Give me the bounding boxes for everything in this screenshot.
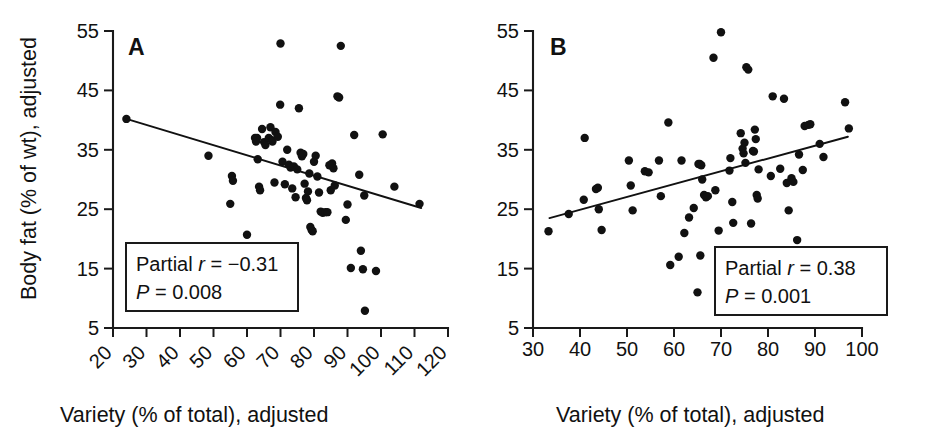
panel-b-x-ticklabels: 30405060708090100	[522, 338, 879, 360]
data-point	[655, 156, 663, 164]
data-point	[226, 200, 234, 208]
data-point	[776, 165, 784, 173]
panel-b-scatter-chart: Variety (% of total), adjusted B 5152535…	[462, 0, 925, 436]
data-point	[335, 93, 343, 101]
data-point	[295, 104, 303, 112]
data-point	[357, 247, 365, 255]
data-point	[342, 216, 350, 224]
data-point	[283, 146, 291, 154]
data-point	[270, 178, 278, 186]
data-point	[784, 206, 792, 214]
data-point	[343, 200, 351, 208]
panel-b-x-tick-label: 40	[569, 338, 591, 360]
data-point	[256, 186, 264, 194]
data-point	[752, 135, 760, 143]
data-point	[355, 171, 363, 179]
panel-a-stat-line-2: P = 0.008	[136, 281, 222, 303]
panel-a-y-tick-label: 5	[88, 317, 99, 339]
data-point	[347, 264, 355, 272]
panel-a-x-tick-label: 110	[379, 341, 417, 379]
data-point	[580, 196, 588, 204]
panel-b-x-tick-label: 30	[522, 338, 544, 360]
data-point	[754, 165, 762, 173]
panel-b-letter: B	[550, 34, 567, 60]
data-point	[747, 219, 755, 227]
data-point	[697, 161, 705, 169]
data-point	[372, 267, 380, 275]
panel-a-y-tick-label: 15	[77, 258, 99, 280]
panel-a-x-tick-label: 60	[219, 341, 250, 372]
panel-a-x-tick-label: 100	[345, 341, 384, 380]
panel-a-stat-line-1: Partial r = −0.31	[136, 253, 278, 275]
panel-b-x-tick-label: 100	[845, 338, 878, 360]
panel-a-x-tick-label: 70	[252, 341, 283, 372]
panel-b-x-tick-label: 90	[804, 338, 826, 360]
data-point	[243, 231, 251, 239]
panel-b-x-axis-title: Variety (% of total), adjusted	[556, 403, 824, 427]
panel-a-x-tick-label: 40	[152, 341, 183, 372]
data-point	[685, 213, 693, 221]
data-point	[625, 156, 633, 164]
data-point	[728, 198, 736, 206]
panel-b-stat-annotation: Partial r = 0.38 P = 0.001	[715, 247, 887, 315]
data-point	[789, 178, 797, 186]
data-point	[276, 39, 284, 47]
panel-b-y-axis: 51525354555	[497, 20, 533, 339]
panel-b-y-tick-label: 35	[497, 139, 519, 161]
data-point	[714, 226, 722, 234]
panel-a-x-tick-label: 90	[319, 341, 350, 372]
data-point	[276, 100, 284, 108]
panel-b-stat-p-symbol: P	[725, 285, 739, 307]
data-point	[729, 219, 737, 227]
panel-a-x-tick-label: 120	[412, 341, 451, 380]
data-point	[299, 150, 307, 158]
panel-a-y-tick-label: 25	[77, 198, 99, 220]
panel-a-stat-p-symbol: P	[136, 281, 150, 303]
panel-b-y-tick-label: 45	[497, 79, 519, 101]
data-point	[350, 131, 358, 139]
data-point	[361, 307, 369, 315]
panel-b-y-tick-label: 25	[497, 198, 519, 220]
data-point	[780, 95, 788, 103]
data-point	[819, 153, 827, 161]
data-point	[300, 179, 308, 187]
data-point	[204, 152, 212, 160]
data-point	[229, 176, 237, 184]
panel-b-x-tick-label: 60	[663, 338, 685, 360]
data-point	[767, 172, 775, 180]
panel-a-letter: A	[128, 34, 145, 60]
panel-a-y-axis: 51525354555	[77, 20, 113, 339]
data-point	[544, 227, 552, 235]
panel-a-stat-r-value: = −0.31	[205, 253, 278, 275]
data-point	[288, 184, 296, 192]
panel-b-stat-line-2: P = 0.001	[725, 285, 811, 307]
data-point	[664, 118, 672, 126]
data-point	[717, 28, 725, 36]
data-point	[666, 261, 674, 269]
panel-a-stat-p-value: = 0.008	[149, 281, 222, 303]
figure-container: Body fat (% of wt), adjusted Variety (% …	[0, 0, 925, 436]
panel-a-y-ticklabels: 51525354555	[77, 20, 99, 339]
data-point	[841, 98, 849, 106]
panel-b-y-ticks	[524, 31, 533, 328]
panel-b-x-axis: 30405060708090100	[522, 328, 879, 360]
data-point	[675, 253, 683, 261]
panel-b-stat-r-value: = 0.38	[794, 257, 856, 279]
data-point	[750, 147, 758, 155]
panel-b-regression-line	[549, 137, 847, 218]
data-point	[693, 288, 701, 296]
data-point	[740, 138, 748, 146]
panel-a-x-tick-label: 50	[185, 341, 216, 372]
data-point	[315, 188, 323, 196]
data-point	[627, 181, 635, 189]
panel-b-x-tick-label: 50	[616, 338, 638, 360]
panel-b-x-ticks	[533, 328, 862, 337]
panel-a-x-ticklabels: 2030405060708090100110120	[85, 341, 451, 380]
panel-a-stat-annotation: Partial r = −0.31 P = 0.008	[126, 243, 298, 311]
panel-a-y-axis-title: Body fat (% of wt), adjusted	[17, 37, 41, 300]
data-point	[680, 229, 688, 237]
data-point	[793, 236, 801, 244]
data-point	[769, 92, 777, 100]
data-point	[337, 42, 345, 50]
data-point	[253, 134, 261, 142]
